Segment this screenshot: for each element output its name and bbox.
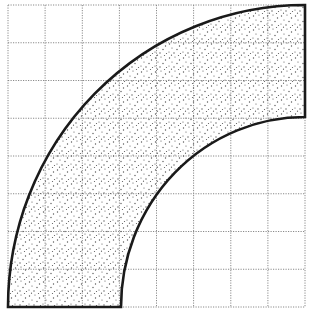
shaded-annulus-band bbox=[8, 5, 305, 307]
annulus-grid-diagram bbox=[0, 0, 311, 313]
